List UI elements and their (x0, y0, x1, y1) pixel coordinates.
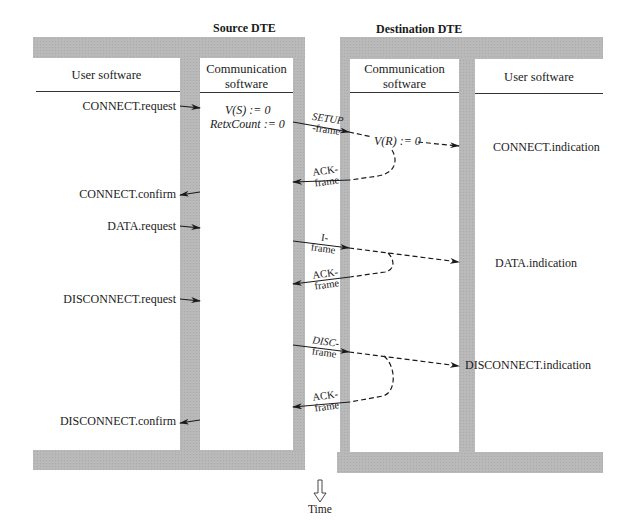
data-request-arrow (180, 226, 200, 228)
disconnect-confirm-arrow (180, 420, 200, 423)
connect-request-arrow (180, 106, 200, 108)
ack-frame-2-arrow (293, 277, 350, 284)
connect-confirm-arrow (180, 192, 200, 195)
connect-indication-dashed-arrow (418, 142, 459, 146)
disc-frame-arrow (293, 345, 349, 352)
i-frame-arrow (293, 241, 349, 248)
ack-frame-3-arrow (293, 402, 350, 407)
ack-1-dashed-loop (350, 150, 395, 180)
down-arrow-icon (314, 480, 326, 502)
time-axis-label: Time (308, 503, 332, 515)
data-indication-dashed-arrow (349, 248, 459, 262)
ack-3-dashed-loop (350, 356, 393, 402)
disconnect-indication-dashed-arrow (349, 352, 459, 366)
setup-dashed-continuation (349, 132, 372, 137)
arrows-layer (0, 0, 639, 532)
ack-2-dashed-loop (350, 253, 393, 277)
disconnect-request-arrow (180, 299, 200, 301)
ack-frame-1-arrow (293, 180, 350, 182)
setup-frame-arrow (293, 122, 349, 132)
